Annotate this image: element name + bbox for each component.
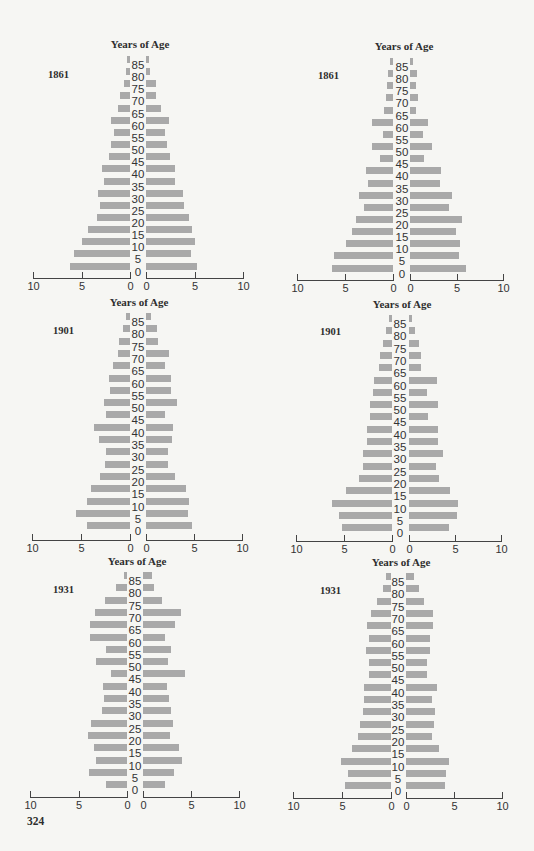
bar-left: [110, 387, 130, 394]
bar-left: [389, 315, 392, 322]
age-label: 55: [132, 391, 145, 402]
bar-left: [94, 744, 127, 751]
bar-right: [410, 192, 452, 199]
bar-left: [383, 131, 393, 138]
bar-right: [146, 129, 165, 136]
chart-title: Years of Age: [375, 40, 434, 52]
age-label: 45: [396, 159, 409, 170]
axis-tick-label: 0: [388, 800, 394, 812]
bar-left: [360, 721, 391, 728]
axis-tick: [454, 792, 455, 798]
axis-tick-label: 0: [389, 543, 395, 555]
axis-tick: [33, 272, 34, 278]
bar-right: [146, 105, 161, 112]
bar-right: [410, 216, 462, 223]
bar-right: [146, 325, 157, 332]
age-label: 20: [396, 220, 409, 231]
bar-left: [366, 167, 393, 174]
bar-right: [406, 733, 432, 740]
bar-right: [406, 684, 437, 691]
age-label: 30: [132, 452, 145, 463]
bar-left: [126, 68, 130, 75]
bar-right: [410, 70, 417, 77]
bar-right: [410, 265, 466, 272]
chart-title: Years of Age: [110, 296, 169, 308]
age-label: 80: [394, 331, 407, 342]
bar-right: [146, 387, 171, 394]
bar-left: [102, 165, 130, 172]
bar-right: [146, 263, 197, 270]
axis-tick-label: 0: [124, 799, 130, 811]
age-label: 40: [132, 169, 145, 180]
bar-right: [406, 745, 439, 752]
bar-right: [406, 610, 433, 617]
axis-tick-label: 0: [127, 542, 133, 554]
bar-left: [387, 82, 393, 89]
age-label: 15: [132, 489, 145, 500]
bar-left: [356, 216, 393, 223]
bar-left: [369, 635, 391, 642]
x-axis-left: [33, 278, 131, 279]
bar-left: [124, 572, 127, 579]
year-label: 1931: [320, 585, 341, 596]
age-label: 10: [132, 502, 145, 513]
age-label: 70: [132, 354, 145, 365]
year-label: 1861: [48, 69, 69, 80]
bar-left: [342, 524, 392, 531]
x-axis-left: [30, 797, 128, 798]
age-label: 65: [129, 625, 142, 636]
bar-right: [406, 573, 414, 580]
bar-left: [386, 327, 392, 334]
axis-tick: [79, 791, 80, 797]
bar-left: [358, 733, 391, 740]
bar-right: [146, 68, 150, 75]
bar-left: [87, 498, 130, 505]
age-label: 5: [132, 773, 138, 784]
x-axis-right: [410, 280, 504, 281]
axis-tick: [502, 792, 503, 798]
bar-left: [346, 240, 393, 247]
bar-right: [146, 190, 183, 197]
bar-right: [143, 597, 162, 604]
bar-right: [409, 389, 427, 396]
bar-right: [146, 313, 151, 320]
bar-right: [410, 82, 416, 89]
bar-left: [111, 141, 130, 148]
age-label: 65: [396, 111, 409, 122]
axis-tick: [130, 534, 131, 540]
x-axis-left: [296, 541, 393, 542]
bar-right: [410, 131, 423, 138]
age-label: 55: [392, 651, 405, 662]
year-label: 1901: [320, 326, 341, 337]
bar-left: [113, 362, 130, 369]
bar-right: [406, 721, 434, 728]
axis-tick-label: 10: [24, 799, 36, 811]
axis-tick: [457, 274, 458, 280]
bar-right: [146, 56, 149, 63]
age-label: 60: [132, 121, 145, 132]
axis-tick-label: 10: [290, 543, 302, 555]
axis-tick-label: 10: [495, 543, 507, 555]
bar-right: [406, 585, 419, 592]
age-label: 55: [396, 135, 409, 146]
bar-right: [409, 524, 449, 531]
bar-left: [91, 485, 130, 492]
axis-tick: [503, 274, 504, 280]
age-label: 30: [392, 712, 405, 723]
age-label: 65: [392, 626, 405, 637]
age-label: 85: [392, 577, 405, 588]
age-label: 80: [392, 589, 405, 600]
age-label: 25: [132, 465, 145, 476]
axis-tick: [501, 535, 502, 541]
bar-right: [146, 92, 156, 99]
axis-tick-label: 0: [407, 282, 413, 294]
axis-tick: [239, 791, 240, 797]
age-label: 50: [132, 145, 145, 156]
bar-left: [94, 424, 130, 431]
age-label: 0: [399, 269, 405, 280]
age-label: 25: [392, 725, 405, 736]
age-label: 20: [132, 218, 145, 229]
age-label: 10: [132, 242, 145, 253]
bar-left: [371, 610, 391, 617]
age-label: 15: [396, 232, 409, 243]
